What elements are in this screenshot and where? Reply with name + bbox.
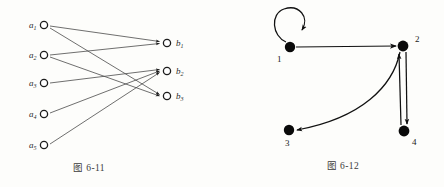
- node-3-label: 3: [285, 138, 290, 148]
- right-node-group: [163, 39, 170, 99]
- node-b2[interactable]: [163, 67, 170, 74]
- node-3[interactable]: [284, 125, 294, 135]
- node-b1-sub: 1: [181, 43, 184, 49]
- node-1[interactable]: [285, 42, 295, 52]
- edge-a1-b3: [50, 28, 160, 95]
- node-b2-sub: 2: [181, 71, 184, 77]
- svg-text:a4: a4: [29, 109, 37, 120]
- node-b3-sub: 3: [180, 96, 184, 102]
- node-b3[interactable]: [163, 92, 170, 99]
- left-label-group: a1 a2 a3 a4 a5: [29, 20, 37, 151]
- left-node-group: [40, 21, 47, 148]
- node-4[interactable]: [399, 126, 410, 137]
- node-a3[interactable]: [40, 79, 47, 86]
- edge-a1-b1: [50, 26, 160, 42]
- node-a2[interactable]: [40, 51, 47, 58]
- node-1-label: 1: [277, 54, 282, 64]
- bipartite-graph-canvas: a1 a2 a3 a4 a5 b1: [0, 0, 222, 187]
- svg-text:a1: a1: [29, 20, 37, 31]
- node-a5-sub: 5: [34, 145, 37, 151]
- svg-text:b3: b3: [176, 91, 184, 102]
- edge-a2-b1: [50, 44, 160, 56]
- node-a4-sub: 4: [34, 114, 37, 120]
- figure-6-12-caption: 图 6-12: [232, 158, 444, 172]
- edge-n4-n2: [399, 54, 401, 125]
- edge-a5-b2: [50, 73, 160, 145]
- node-2-label: 2: [415, 34, 420, 44]
- node-2[interactable]: [398, 41, 409, 52]
- svg-text:a3: a3: [29, 78, 37, 89]
- figure-6-12: 1 2 3 4 图 6-12: [222, 0, 444, 187]
- node-b1[interactable]: [163, 39, 170, 46]
- node-a2-sub: 2: [34, 55, 37, 61]
- right-label-group: b1 b2 b3: [176, 38, 184, 102]
- node-4-label: 4: [412, 137, 417, 147]
- edge-n2-n4: [406, 52, 407, 124]
- node-a3-sub: 3: [33, 83, 37, 89]
- node-a1-sub: 1: [34, 25, 37, 31]
- edge-a3-b2: [50, 70, 160, 84]
- svg-text:b1: b1: [176, 38, 184, 49]
- edge-n1-n1-self-loop: [274, 8, 304, 42]
- svg-text:b2: b2: [176, 66, 184, 77]
- figure-page: a1 a2 a3 a4 a5 b1: [0, 0, 444, 187]
- node-a4[interactable]: [40, 110, 47, 117]
- node-a1[interactable]: [40, 21, 47, 28]
- svg-text:a2: a2: [29, 50, 37, 61]
- edge-group: [50, 26, 160, 144]
- svg-text:a5: a5: [29, 140, 37, 151]
- edge-a4-b2: [50, 71, 160, 113]
- edge-n1-n2: [296, 46, 396, 47]
- edge-n2-n3-curve: [297, 52, 400, 130]
- figure-6-11: a1 a2 a3 a4 a5 b1: [0, 0, 222, 187]
- figure-6-11-caption: 图 6-11: [0, 160, 200, 174]
- node-a5[interactable]: [40, 141, 47, 148]
